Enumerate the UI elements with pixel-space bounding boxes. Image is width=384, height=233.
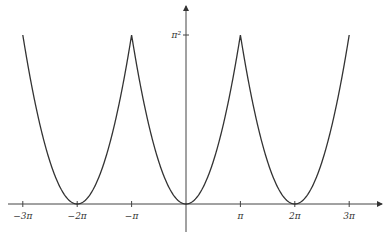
plot-area: −3π−2π−ππ2π3π π² bbox=[0, 0, 384, 233]
y-tick-label: π² bbox=[170, 30, 181, 40]
x-tick-label: −2π bbox=[68, 211, 88, 221]
x-tick-label: −3π bbox=[13, 211, 33, 221]
x-tick-label: 2π bbox=[288, 211, 302, 221]
x-tick-label: π bbox=[236, 211, 244, 221]
x-tick-label: 3π bbox=[343, 211, 356, 221]
x-tick-label: −π bbox=[125, 211, 140, 221]
